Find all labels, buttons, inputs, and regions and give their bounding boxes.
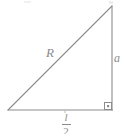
fraction-l-over-2: l 2	[62, 112, 71, 134]
hypotenuse-label: R	[46, 46, 54, 59]
geometry-figure: R a l 2	[0, 0, 123, 134]
vertical-leg-label: a	[114, 52, 120, 64]
right-angle-center-dot-icon	[107, 105, 109, 107]
fraction-numerator: l	[63, 112, 68, 124]
horizontal-leg-label: l 2	[58, 112, 74, 134]
hypotenuse-line	[8, 6, 112, 110]
fraction-denominator: 2	[62, 125, 70, 134]
